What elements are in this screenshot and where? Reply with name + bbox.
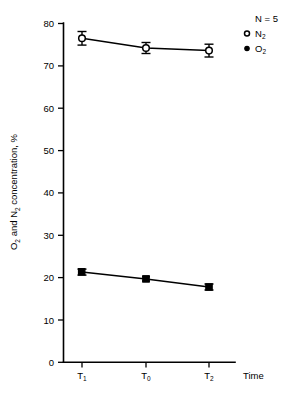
- legend-label-base: O: [255, 43, 262, 54]
- line-chart: 80 70 60 50 40 30 20 10 0 O2 and N2 conc…: [0, 0, 284, 396]
- y-axis-tick-labels: 80 70 60 50 40 30 20 10 0: [43, 18, 54, 368]
- y-tick-label: 40: [43, 187, 54, 198]
- figure-container: 80 70 60 50 40 30 20 10 0 O2 and N2 conc…: [0, 0, 284, 396]
- y-tick-label: 60: [43, 103, 54, 114]
- x-axis-title: Time: [243, 370, 264, 381]
- legend-label-sub: 2: [262, 48, 266, 55]
- y-axis-title-part: O: [8, 243, 19, 250]
- x-tick-sub: 2: [210, 375, 214, 382]
- x-tick-sub: 0: [147, 375, 151, 382]
- x-tick-sub: 1: [83, 375, 87, 382]
- filled-circle-icon: [245, 46, 249, 50]
- y-axis-title: O2 and N2 concentration, %: [8, 133, 21, 250]
- data-point-o2-t1: [79, 269, 85, 275]
- y-axis-title-part: concentration, %: [8, 133, 19, 207]
- legend-sample-size: N = 5: [255, 13, 278, 24]
- y-tick-label: 10: [43, 315, 54, 326]
- y-tick-label: 30: [43, 230, 54, 241]
- y-tick-label: 70: [43, 60, 54, 71]
- data-point-n2-t1: [79, 35, 86, 42]
- y-tick-label: 0: [49, 357, 54, 368]
- y-tick-label: 50: [43, 145, 54, 156]
- open-circle-icon: [245, 31, 250, 36]
- y-tick-label: 20: [43, 272, 54, 283]
- legend-label-sub: 2: [262, 33, 266, 40]
- y-tick-label: 80: [43, 18, 54, 29]
- data-point-o2-t0: [143, 276, 149, 282]
- data-point-n2-t0: [143, 45, 150, 52]
- svg-text:O2 and N2 concentration, %: O2 and N2 concentration, %: [8, 133, 21, 250]
- y-axis-title-part: and N: [8, 211, 19, 239]
- data-point-n2-t2: [206, 47, 213, 54]
- data-point-o2-t2: [206, 284, 212, 290]
